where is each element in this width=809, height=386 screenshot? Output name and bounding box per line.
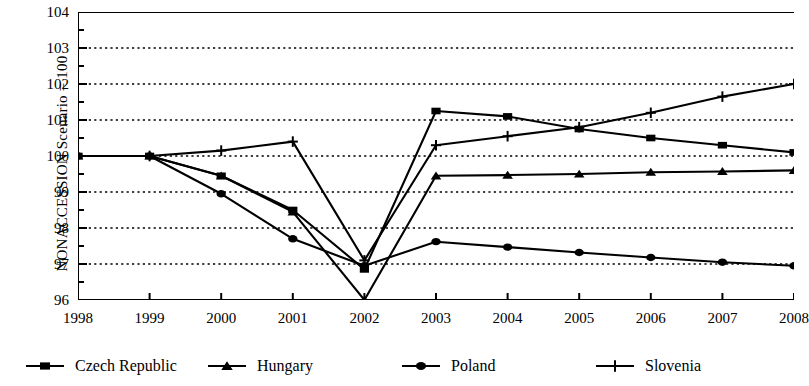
y-tick-label: 103	[47, 40, 70, 57]
chart-canvas	[78, 12, 794, 300]
data-point-marker	[646, 135, 655, 142]
y-tick-label: 102	[47, 76, 70, 93]
legend-label: Poland	[451, 357, 495, 375]
data-point-marker	[431, 108, 440, 115]
series-line	[78, 111, 794, 269]
legend-label: Czech Republic	[75, 357, 177, 375]
data-point-marker	[575, 249, 584, 256]
y-tick-label: 100	[47, 148, 70, 165]
y-tick-label: 97	[54, 256, 69, 273]
x-tick-label: 2003	[421, 310, 451, 327]
data-point-marker	[503, 243, 512, 250]
plot-area: 96979899100101102103104 1998199920002001…	[78, 12, 794, 300]
y-tick-label: 98	[54, 220, 69, 237]
legend-item-czech-republic[interactable]: Czech Republic	[24, 352, 177, 380]
data-point-marker	[503, 131, 513, 142]
data-point-marker	[789, 149, 794, 156]
data-point-marker	[717, 91, 727, 102]
data-point-marker	[431, 238, 440, 245]
data-point-marker	[646, 108, 656, 119]
data-point-marker	[288, 235, 297, 242]
data-point-marker	[503, 113, 512, 120]
chart-legend: Czech RepublicHungaryPolandSlovenia	[0, 352, 806, 386]
y-tick-label: 96	[54, 292, 69, 309]
data-point-marker	[789, 262, 794, 269]
x-tick-label: 2004	[493, 310, 523, 327]
legend-label: Slovenia	[645, 357, 701, 375]
x-tick-label: 2002	[349, 310, 379, 327]
x-tick-label: 2008	[779, 310, 809, 327]
x-tick-label: 2000	[206, 310, 236, 327]
x-tick-label: 1998	[63, 310, 93, 327]
triangle-marker-icon	[206, 356, 248, 376]
data-point-marker	[78, 151, 83, 162]
circle-marker-icon	[400, 356, 442, 376]
plus-marker-icon	[594, 356, 636, 376]
data-point-marker	[288, 136, 298, 147]
data-point-marker	[789, 79, 794, 90]
y-tick-label: 104	[47, 4, 70, 21]
legend-item-slovenia[interactable]: Slovenia	[594, 352, 701, 380]
x-tick-label: 2001	[278, 310, 308, 327]
data-point-marker	[718, 142, 727, 149]
legend-item-poland[interactable]: Poland	[400, 352, 495, 380]
x-tick-label: 2007	[707, 310, 737, 327]
x-tick-label: 2006	[636, 310, 666, 327]
x-tick-label: 2005	[564, 310, 594, 327]
legend-item-hungary[interactable]: Hungary	[206, 352, 313, 380]
data-point-marker	[145, 151, 155, 162]
data-point-marker	[431, 140, 441, 151]
y-tick-label: 101	[47, 112, 70, 129]
square-marker-icon	[24, 356, 66, 376]
y-tick-label: 99	[54, 184, 69, 201]
data-point-marker	[718, 259, 727, 266]
data-point-marker	[216, 145, 226, 156]
data-point-marker	[217, 190, 226, 197]
data-point-marker	[646, 254, 655, 261]
legend-label: Hungary	[257, 357, 313, 375]
x-tick-label: 1999	[135, 310, 165, 327]
